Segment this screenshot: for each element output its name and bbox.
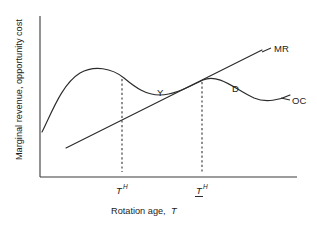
figure-container: Marginal revenue, opportunity cost MR OC… (0, 0, 317, 227)
plot-area: MR OC Y D T H T H Rotation age, T (0, 0, 317, 227)
x-tick-label-first: T (116, 185, 123, 196)
x-tick-label-second: T (196, 185, 203, 196)
x-axis-label-text: Rotation age, (111, 206, 166, 216)
mr-leader-line (262, 48, 271, 52)
mr-line (66, 50, 262, 148)
region-label-d: D (232, 83, 239, 94)
oc-series-label: OC (292, 95, 307, 106)
region-label-y: Y (157, 87, 164, 98)
x-tick-superscript-first: H (123, 183, 128, 190)
oc-curve (42, 68, 290, 132)
mr-series-label: MR (274, 43, 289, 54)
x-tick-superscript-second: H (203, 183, 208, 190)
x-axis-label-symbol: T (171, 206, 178, 216)
oc-leader-line (281, 98, 290, 100)
